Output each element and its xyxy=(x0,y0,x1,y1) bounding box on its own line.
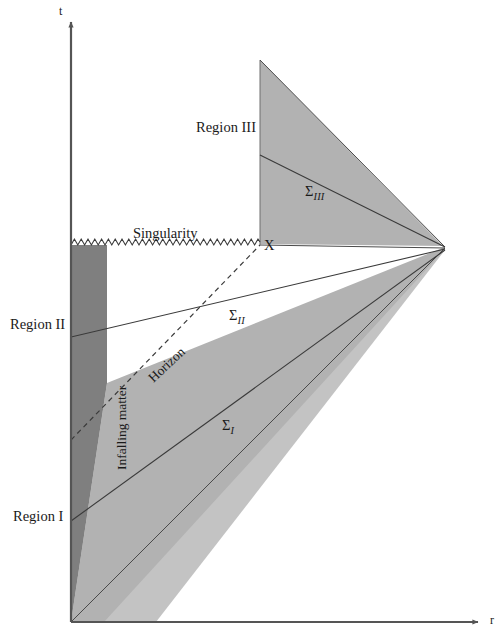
spacetime-diagram: t r Region I Region II Region III Singul… xyxy=(0,0,503,642)
sigma-three-label: ΣIII xyxy=(305,184,325,202)
sigma-one-subscript: I xyxy=(230,425,234,436)
r-axis-label: r xyxy=(490,614,494,626)
diagram-canvas xyxy=(0,0,503,642)
sigma-two-label: ΣII xyxy=(229,308,245,326)
sigma-three-subscript: III xyxy=(313,191,324,202)
region-two-label: Region II xyxy=(10,317,65,332)
infalling-matter-label: Infalling matter xyxy=(115,386,129,470)
sigma-two-subscript: II xyxy=(237,315,244,326)
singularity-label: Singularity xyxy=(133,226,197,241)
sigma-one-label: ΣI xyxy=(222,418,234,436)
region-three-label: Region III xyxy=(196,120,256,135)
region-one-label: Region I xyxy=(13,509,63,524)
t-axis-label: t xyxy=(59,5,62,17)
point-x-label: X xyxy=(264,238,274,253)
